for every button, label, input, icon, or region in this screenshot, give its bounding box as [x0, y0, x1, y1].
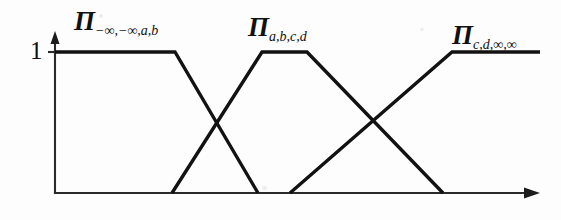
pi-subscript-right: c,d,∞,∞ — [473, 37, 517, 52]
curve-label-middle: Πa,b,c,d — [248, 14, 307, 44]
membership-curve-left — [55, 52, 258, 193]
pi-subscript-middle: a,b,c,d — [269, 29, 307, 44]
fuzzy-membership-figure: 1 Π−∞,−∞,a,b Πa,b,c,d Πc,d,∞,∞ — [0, 0, 561, 220]
membership-curve-middle — [172, 52, 443, 193]
pi-symbol-left: Π — [74, 6, 95, 36]
pi-subscript-left: −∞,−∞,a,b — [95, 23, 158, 38]
curve-label-left: Π−∞,−∞,a,b — [74, 8, 158, 38]
pi-symbol-middle: Π — [248, 12, 269, 42]
y-axis-arrowhead — [51, 31, 60, 44]
y-axis-tick-label-one: 1 — [30, 38, 43, 63]
x-axis-arrowhead — [524, 188, 540, 199]
pi-symbol-right: Π — [452, 20, 473, 50]
curve-label-right: Πc,d,∞,∞ — [452, 22, 517, 52]
